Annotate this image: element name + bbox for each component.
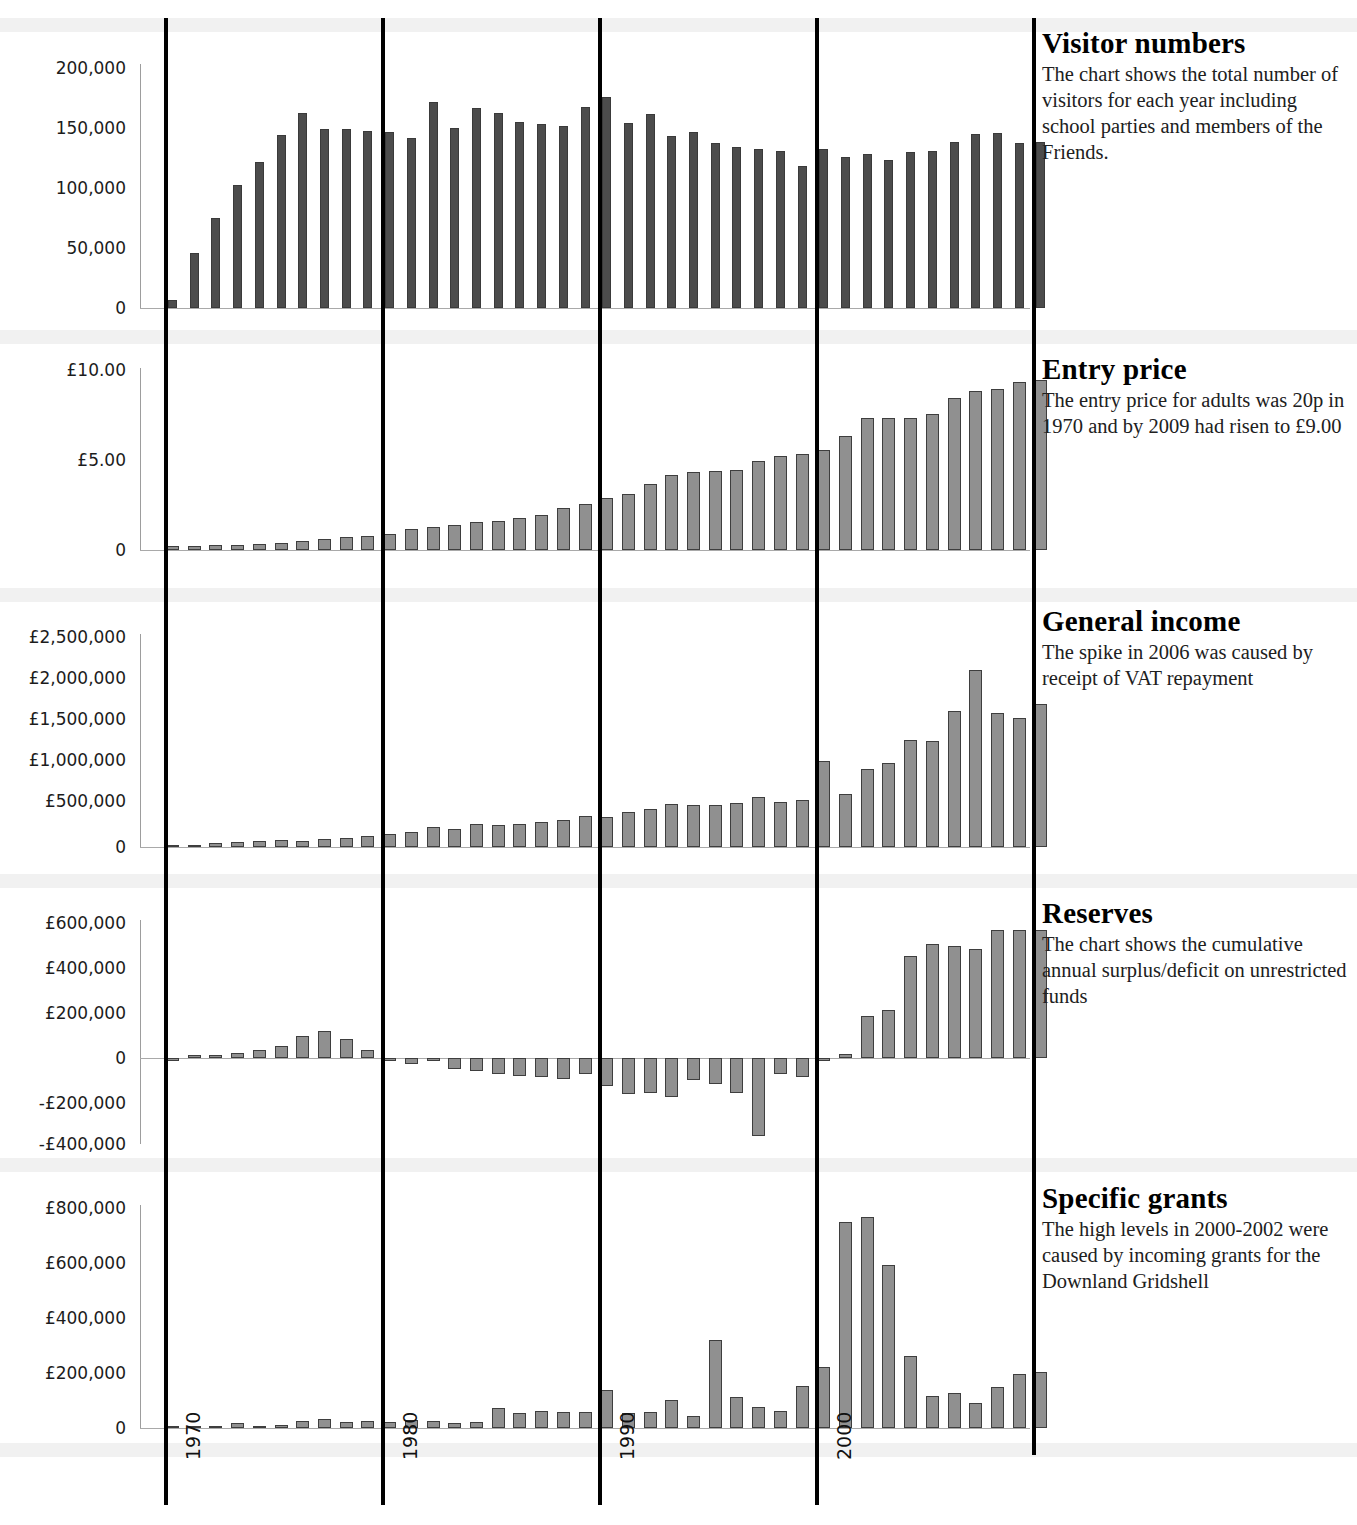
bar	[863, 154, 872, 308]
bar	[622, 494, 635, 550]
bar	[948, 398, 961, 550]
panel-title: Visitor numbers	[1042, 28, 1354, 59]
bar	[600, 817, 613, 847]
separator-band	[0, 330, 1357, 344]
bar	[340, 1039, 353, 1058]
bar	[730, 470, 743, 550]
bar	[253, 1426, 266, 1429]
panel-title: Specific grants	[1042, 1183, 1354, 1214]
bar	[730, 803, 743, 847]
bar	[1013, 1374, 1026, 1428]
panel-description: The spike in 2006 was caused by receipt …	[1042, 639, 1354, 691]
bar	[602, 97, 611, 308]
bar	[882, 763, 895, 847]
bar	[470, 1422, 483, 1428]
bar	[209, 1426, 222, 1429]
bar	[231, 1053, 244, 1058]
bar	[211, 218, 220, 308]
bar	[405, 832, 418, 847]
bar	[296, 1421, 309, 1428]
bar	[492, 1408, 505, 1428]
bar	[363, 131, 372, 308]
y-tick: 0	[115, 837, 126, 857]
plot-entry-price	[140, 350, 1030, 560]
bar	[798, 166, 807, 308]
bar	[557, 1058, 570, 1079]
bar	[361, 536, 374, 550]
y-tick: -£400,000	[39, 1134, 126, 1154]
y-tick: £2,000,000	[29, 668, 126, 688]
bar	[991, 389, 1004, 550]
bar	[622, 812, 635, 847]
bar	[296, 1036, 309, 1058]
bar	[817, 761, 830, 847]
bar	[340, 537, 353, 550]
bar	[861, 418, 874, 550]
panel-description: The entry price for adults was 20p in 19…	[1042, 387, 1354, 439]
caption-visitor-numbers: Visitor numbers The chart shows the tota…	[1042, 28, 1354, 166]
y-tick: £800,000	[45, 1198, 126, 1218]
bar	[644, 484, 657, 550]
bar	[166, 546, 179, 550]
bar	[429, 102, 438, 308]
bar	[188, 546, 201, 550]
bar	[948, 711, 961, 847]
bar	[969, 1403, 982, 1428]
bar	[318, 539, 331, 550]
plot-visitor-numbers	[140, 24, 1030, 316]
bar	[188, 1055, 201, 1058]
bar	[427, 527, 440, 550]
x-tick-label-2000: 2000	[833, 1412, 855, 1460]
bar	[926, 741, 939, 847]
bar	[796, 1386, 809, 1428]
bar	[882, 418, 895, 550]
bar	[383, 1058, 396, 1061]
bar	[709, 1340, 722, 1428]
bar	[774, 1411, 787, 1428]
bar	[231, 545, 244, 550]
bar	[796, 1058, 809, 1077]
bar	[1013, 930, 1026, 1058]
decade-rule-1980	[381, 18, 385, 1505]
y-tick: £10.00	[67, 360, 126, 380]
bar	[448, 1423, 461, 1428]
bar	[361, 1421, 374, 1428]
bar	[948, 946, 961, 1058]
bar	[537, 124, 546, 308]
bar	[275, 1046, 288, 1058]
panel-title: General income	[1042, 606, 1354, 637]
y-axis-visitor-numbers: 200,000 150,000 100,000 50,000 0	[0, 24, 132, 316]
bar	[689, 132, 698, 308]
bar	[926, 414, 939, 551]
decade-rule-2010	[1032, 18, 1036, 1455]
panel-description: The high levels in 2000-2002 were caused…	[1042, 1216, 1354, 1295]
bar	[535, 515, 548, 550]
bar	[904, 740, 917, 847]
bar	[492, 825, 505, 847]
bar-series-visitor-numbers	[140, 24, 1030, 316]
bar	[687, 472, 700, 550]
bar	[427, 827, 440, 847]
bar	[405, 529, 418, 550]
bar	[231, 1423, 244, 1428]
bar	[383, 534, 396, 550]
bar	[448, 829, 461, 847]
bar	[774, 456, 787, 550]
bar	[579, 816, 592, 847]
bar	[904, 956, 917, 1058]
bar	[513, 824, 526, 847]
bar	[581, 107, 590, 308]
y-axis-entry-price: £10.00 £5.00 0	[0, 350, 132, 560]
y-axis-reserves: £600,000 £400,000 £200,000 0 -£200,000 -…	[0, 890, 132, 1145]
bar	[644, 1412, 657, 1428]
bar	[971, 134, 980, 308]
y-tick: 100,000	[56, 178, 126, 198]
bar	[277, 135, 286, 308]
panel-specific-grants: £800,000 £600,000 £400,000 £200,000 0 Sp…	[0, 1175, 1357, 1440]
bar	[231, 842, 244, 847]
bar	[298, 113, 307, 308]
y-tick: £600,000	[45, 1253, 126, 1273]
panel-description: The chart shows the total number of visi…	[1042, 61, 1354, 166]
bar	[926, 944, 939, 1058]
bar	[730, 1058, 743, 1093]
